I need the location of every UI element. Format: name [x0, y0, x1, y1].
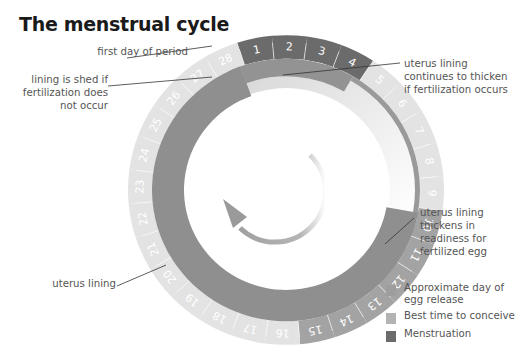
day-number: 22: [135, 211, 151, 227]
legend-item-menstruation: Menstruation: [386, 328, 515, 342]
label-first-day: first day of period: [40, 45, 188, 58]
label-line: fertilized egg: [420, 245, 520, 258]
label-line: continues to thicken: [404, 70, 522, 83]
legend-label: Menstruation: [404, 328, 471, 340]
day-number: 2: [286, 40, 293, 53]
legend-item-best-time: Best time to conceive: [386, 310, 515, 324]
label-continues-thicken: uterus lining continues to thicken if fe…: [404, 57, 522, 96]
label-line: lining is shed if: [20, 73, 108, 86]
day-number: 16: [276, 326, 290, 339]
legend: Approximate day of egg release Best time…: [386, 282, 515, 346]
legend-label: Approximate day of egg release: [404, 282, 504, 306]
cycle-arrow-icon: [223, 155, 326, 242]
label-line: not occur: [20, 99, 108, 112]
legend-label-line: egg release: [404, 294, 504, 306]
day-number: 15: [307, 322, 323, 338]
label-line: fertilization does: [20, 86, 108, 99]
legend-label: Best time to conceive: [404, 310, 515, 322]
label-line: readiness for: [420, 232, 520, 245]
legend-swatch: [386, 331, 396, 342]
legend-item-egg-release: Approximate day of egg release: [386, 282, 515, 306]
legend-swatch: [386, 313, 396, 324]
label-line: if fertilization occurs: [404, 83, 522, 96]
label-uterus-lining: uterus lining: [40, 277, 116, 290]
legend-swatch: [386, 285, 396, 296]
day-number: 23: [133, 180, 146, 194]
day-number: 9: [425, 190, 438, 197]
label-lining-shed: lining is shed if fertilization does not…: [20, 73, 108, 112]
label-line: uterus lining: [420, 206, 520, 219]
legend-label-line: Approximate day of: [404, 282, 504, 294]
uterus-lining-band: [152, 59, 420, 322]
label-line: thickens in: [420, 219, 520, 232]
label-line: uterus lining: [404, 57, 522, 70]
label-thickens-readiness: uterus lining thickens in readiness for …: [420, 206, 520, 258]
